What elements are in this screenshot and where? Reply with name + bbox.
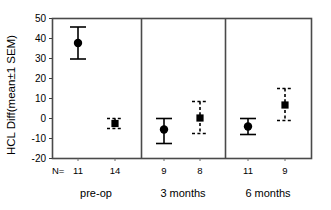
- data-point-preop-square: [107, 119, 123, 129]
- n-value-6months-square: 9: [282, 165, 287, 176]
- marker-circle: [74, 39, 82, 47]
- error-bar-chart: HCL Diff(mean±1 SEM) 50 40 30 20 10 0 -1…: [0, 0, 331, 210]
- y-tick-label-neg20: -20: [32, 153, 47, 164]
- y-axis-ticks: [49, 19, 52, 159]
- y-tick-label-40: 40: [35, 33, 47, 44]
- data-point-3months-square: [192, 102, 208, 134]
- n-value-3months-square: 8: [197, 165, 202, 176]
- group-label-6months: 6 months: [245, 187, 291, 199]
- chart-container: HCL Diff(mean±1 SEM) 50 40 30 20 10 0 -1…: [0, 0, 331, 210]
- n-value-preop-square: 14: [110, 165, 121, 176]
- n-value-preop-circle: 11: [73, 165, 83, 176]
- marker-circle: [160, 125, 168, 133]
- marker-square: [281, 101, 288, 108]
- group-label-preop: pre-op: [80, 187, 112, 199]
- group-label-3months: 3 months: [160, 187, 206, 199]
- y-tick-label-20: 20: [35, 73, 47, 84]
- y-tick-label-30: 30: [35, 53, 47, 64]
- y-axis-title: HCL Diff(mean±1 SEM): [5, 35, 17, 155]
- n-value-6months-circle: 11: [243, 165, 253, 176]
- y-tick-label-0: 0: [40, 113, 46, 124]
- data-point-preop-circle: [70, 27, 86, 59]
- y-tick-label-10: 10: [35, 93, 47, 104]
- plot-frame: [53, 19, 312, 159]
- n-prefix-label: N=: [52, 165, 65, 176]
- marker-circle: [244, 122, 252, 130]
- y-tick-label-50: 50: [35, 13, 47, 24]
- n-value-3months-circle: 9: [161, 165, 166, 176]
- y-tick-label-neg10: -10: [32, 133, 47, 144]
- data-point-3months-circle: [156, 119, 172, 144]
- marker-square: [111, 120, 118, 127]
- data-point-6months-circle: [240, 119, 256, 135]
- data-point-6months-square: [277, 89, 293, 121]
- marker-square: [196, 114, 203, 121]
